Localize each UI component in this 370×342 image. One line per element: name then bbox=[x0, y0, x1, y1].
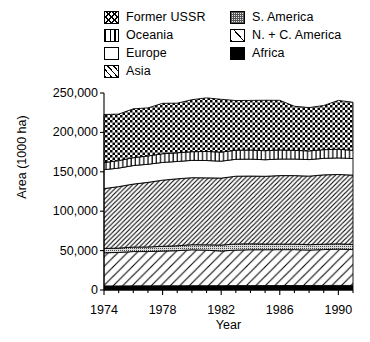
y-tick-label: 50,000 bbox=[60, 244, 98, 258]
x-tick-label: 1990 bbox=[324, 303, 352, 317]
y-tick-label: 100,000 bbox=[53, 204, 98, 218]
chart-figure: Former USSROceaniaEuropeAsia S. AmericaN… bbox=[0, 0, 370, 342]
y-tick-label: 200,000 bbox=[53, 125, 98, 139]
x-tick-label: 1982 bbox=[207, 303, 235, 317]
area-band-asia bbox=[104, 174, 353, 248]
y-tick-label: 150,000 bbox=[53, 165, 98, 179]
x-axis-label: Year bbox=[104, 318, 353, 332]
y-tick-label: 250,000 bbox=[53, 86, 98, 100]
x-tick-label: 1978 bbox=[149, 303, 177, 317]
area-band-n-c-america bbox=[104, 249, 353, 286]
x-tick-label: 1974 bbox=[90, 303, 118, 317]
x-tick-label: 1986 bbox=[266, 303, 294, 317]
x-axis-ticks: 19741978198219861990 bbox=[0, 295, 370, 313]
y-axis-label: Area (1000 ha) bbox=[15, 87, 29, 227]
